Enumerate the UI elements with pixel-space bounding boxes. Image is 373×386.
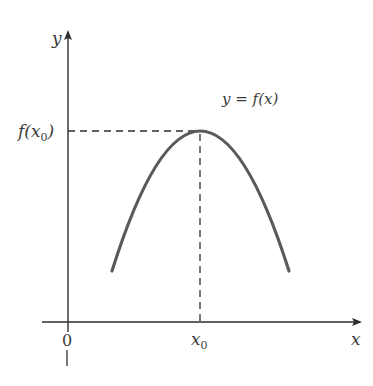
origin-label: 0 bbox=[62, 331, 72, 350]
curve-label: y = f(x) bbox=[221, 90, 278, 108]
diagram: y x 0 f(x0) x0 y = f(x) bbox=[0, 0, 373, 386]
x-axis-label: x bbox=[351, 329, 361, 349]
y-axis-label: y bbox=[51, 28, 62, 48]
f-x0-label: f(x0) bbox=[16, 121, 54, 144]
svg-text:f(x0): f(x0) bbox=[16, 121, 54, 144]
svg-text:x0: x0 bbox=[191, 329, 208, 352]
x0-label: x0 bbox=[191, 329, 208, 352]
